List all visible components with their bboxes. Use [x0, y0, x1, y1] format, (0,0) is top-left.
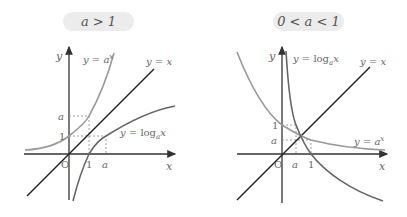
origin-label: O [274, 159, 282, 170]
log-curve [286, 51, 383, 201]
x-tick-1: 1 [86, 159, 92, 170]
x-tick-a: a [292, 159, 298, 170]
exp-curve-label: y = ax [82, 53, 113, 65]
y-tick-a: a [58, 111, 64, 122]
identity-line-label: y = x [359, 56, 386, 67]
log-curve-label: y = logax [292, 53, 339, 67]
x-tick-a: a [102, 159, 108, 170]
exp-curve-label: y = ax [353, 135, 384, 147]
y-tick-a: a [271, 135, 277, 146]
y-tick-1: 1 [59, 131, 65, 142]
x-axis-label: x [166, 160, 173, 173]
log-curve-label: y = logax [119, 127, 166, 141]
origin-label: O [61, 159, 69, 170]
identity-line-label: y = x [145, 56, 172, 67]
y-axis-label: y [268, 50, 276, 63]
x-tick-1: 1 [308, 159, 314, 170]
right-graph: y x O 1 a a 1 y = logax y = x y = ax [237, 47, 387, 203]
y-tick-1: 1 [272, 120, 278, 131]
graphs-canvas: y x O a 1 1 a y = ax y = x y = logax y x… [0, 0, 407, 217]
left-graph: y x O a 1 1 a y = ax y = x y = logax [24, 47, 175, 201]
y-axis-label: y [55, 50, 63, 63]
x-axis-label: x [379, 160, 386, 173]
identity-line [237, 67, 370, 200]
